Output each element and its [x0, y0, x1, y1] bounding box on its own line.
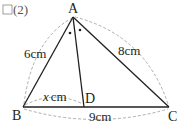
point-label-b: B [12, 108, 21, 123]
point-label-c: C [168, 109, 177, 124]
checkbox-icon[interactable] [3, 5, 12, 14]
point-label-a: A [68, 1, 79, 16]
label-ac: 8cm [118, 43, 140, 58]
triangle-diagram: (2) A B C D 6cm 8cm 9cm xcm [0, 0, 179, 125]
variable-x: x [42, 89, 49, 104]
bisector-ad [73, 17, 84, 107]
label-bd: xcm [42, 89, 67, 104]
label-bc: 9cm [89, 109, 111, 124]
problem-number: (2) [13, 2, 28, 17]
point-label-d: D [85, 91, 95, 106]
angle-mark-right [79, 29, 82, 32]
label-ab: 6cm [24, 46, 46, 61]
unit-cm: cm [51, 89, 67, 104]
angle-mark-left [69, 32, 72, 35]
